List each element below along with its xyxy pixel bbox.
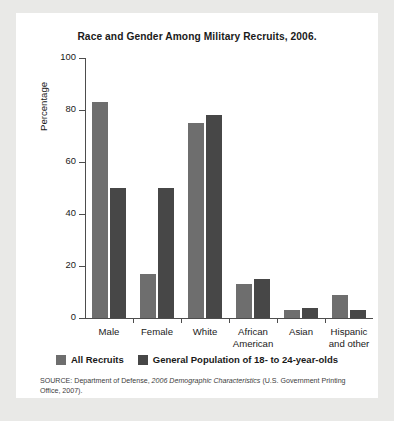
legend-label: General Population of 18- to 24-year-old…: [153, 354, 338, 365]
category-label: Male: [85, 326, 133, 338]
y-tick-mark: [79, 58, 85, 59]
source-title-italic: 2006 Demographic Characteristics: [152, 377, 261, 385]
figure-card: Race and Gender Among Military Recruits,…: [16, 13, 378, 398]
bar: [140, 274, 156, 318]
source-prefix: SOURCE: Department of Defense,: [40, 377, 152, 385]
x-tick-mark: [181, 318, 182, 323]
bar: [188, 123, 204, 318]
x-tick-mark: [277, 318, 278, 323]
y-tick-label: 60: [66, 155, 76, 166]
bar: [92, 102, 108, 318]
bar: [254, 279, 270, 318]
category-label: Asian: [277, 326, 325, 338]
y-axis-line: [85, 58, 86, 318]
x-tick-mark: [229, 318, 230, 323]
bar: [110, 188, 126, 318]
legend-swatch: [138, 355, 148, 365]
legend-item: All Recruits: [56, 354, 124, 365]
y-axis-title: Percentage: [38, 82, 49, 131]
y-tick-mark: [79, 110, 85, 111]
x-tick-mark: [325, 318, 326, 323]
chart-title: Race and Gender Among Military Recruits,…: [16, 31, 378, 42]
y-tick-label: 80: [66, 103, 76, 114]
category-label: African American: [229, 326, 277, 349]
category-label: Hispanic and other: [325, 326, 373, 349]
category-label: White: [181, 326, 229, 338]
y-tick-label: 100: [60, 51, 76, 62]
y-tick-label: 0: [71, 311, 76, 322]
bar: [332, 295, 348, 318]
source-note: SOURCE: Department of Defense, 2006 Demo…: [40, 377, 358, 396]
y-tick-mark: [79, 214, 85, 215]
legend-item: General Population of 18- to 24-year-old…: [138, 354, 338, 365]
x-tick-mark: [133, 318, 134, 323]
bar: [350, 310, 366, 318]
bar: [236, 284, 252, 318]
y-tick-label: 40: [66, 207, 76, 218]
y-tick-mark: [79, 162, 85, 163]
bar: [206, 115, 222, 318]
y-tick-mark: [79, 266, 85, 267]
bar: [284, 310, 300, 318]
y-tick-mark: [79, 318, 85, 319]
y-tick-label: 20: [66, 259, 76, 270]
bar: [302, 308, 318, 318]
legend-swatch: [56, 355, 66, 365]
plot-area: 020406080100 MaleFemaleWhiteAfrican Amer…: [85, 58, 373, 318]
chart-legend: All RecruitsGeneral Population of 18- to…: [16, 354, 378, 365]
bar: [158, 188, 174, 318]
legend-label: All Recruits: [71, 354, 124, 365]
category-label: Female: [133, 326, 181, 338]
